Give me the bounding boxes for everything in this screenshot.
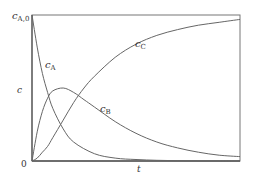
series-label-ca: cA xyxy=(45,59,57,72)
curves-group xyxy=(32,15,240,161)
y-tick-ca0-label: cA,0 xyxy=(12,10,29,23)
y-axis-label: c xyxy=(17,85,22,95)
y-tick-zero-label: 0 xyxy=(21,159,27,169)
x-axis-label: t xyxy=(137,164,141,174)
curve-c-b xyxy=(32,88,240,161)
concentration-time-chart: cA,0 0 c t cA cB cC xyxy=(0,0,255,179)
series-label-cb: cB xyxy=(100,103,111,116)
